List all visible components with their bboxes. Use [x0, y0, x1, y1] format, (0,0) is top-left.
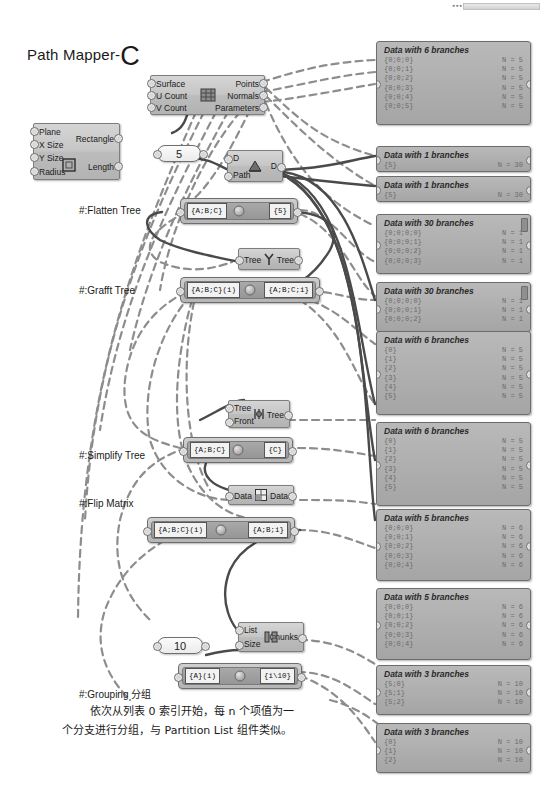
mapper-flip[interactable]: {A;B;C}(i) {A;B;i} — [147, 517, 295, 543]
mapper-grouping-out[interactable] — [297, 673, 306, 682]
mapper-knob-icon[interactable] — [234, 206, 245, 217]
mapper-grouping-in[interactable] — [174, 673, 183, 682]
port-d-out[interactable] — [277, 163, 286, 172]
label-simplify-tree: #:Simplify Tree — [79, 450, 145, 461]
grasshopper-canvas[interactable]: ▪▪▪ — [0, 0, 541, 799]
mapper-simplify[interactable]: {A;B;C} {C} — [183, 437, 293, 463]
rectangle-component[interactable]: Plane X Size Y Size Radius Rectangle Len… — [33, 123, 120, 180]
port-size-in[interactable] — [235, 641, 244, 650]
port-length[interactable] — [114, 162, 123, 171]
panel-out[interactable] — [526, 461, 531, 470]
mapper-knob-icon[interactable] — [245, 285, 256, 296]
panel-flatten-b[interactable]: Data with 1 branches {5}N = 30 — [376, 176, 531, 202]
panel-out[interactable] — [526, 688, 531, 697]
panel-out[interactable] — [526, 621, 531, 630]
port-data-out[interactable] — [288, 492, 297, 501]
port-tree-out[interactable] — [284, 411, 293, 420]
panel-row: {2}N = 5 — [384, 455, 523, 464]
panel-flip-a[interactable]: Data with 5 branches {0;0;0}N = 6 {0;0;1… — [376, 509, 531, 581]
panel-out[interactable] — [526, 80, 531, 89]
mapper-simplify-in[interactable] — [179, 447, 188, 456]
panel-flatten-a[interactable]: Data with 1 branches {5}N = 30 — [376, 146, 531, 172]
panel-row: {1}N = 5 — [384, 355, 523, 364]
panel-out[interactable] — [526, 241, 531, 250]
page-title: Path Mapper-C — [27, 46, 140, 68]
port-ysize[interactable] — [30, 153, 39, 162]
panel-flip-b[interactable]: Data with 5 branches {0;0;0}N = 6 {0;0;1… — [376, 588, 531, 660]
simplify-tree-component[interactable]: Tree Front Tree — [228, 400, 290, 428]
divide-surface-component[interactable]: Surface U Count V Count Points Normals P… — [150, 75, 265, 115]
mapper-simplify-source: {A;B;C} — [190, 442, 230, 458]
panel-simplify-b[interactable]: Data with 6 branches {0}N = 5 {1}N = 5 {… — [376, 422, 531, 506]
panel-row: {0;0;0;2}N = 1 — [384, 247, 523, 256]
panel-row: {0;0;1}N = 5 — [384, 65, 523, 74]
panel-row: {0;0;0;2}N = 1 — [384, 315, 523, 324]
panel-out[interactable] — [526, 542, 531, 551]
port-front-in[interactable] — [225, 418, 234, 427]
divide-surface-icon — [199, 87, 217, 103]
graft-tree-icon — [262, 252, 276, 266]
mapper-knob-icon[interactable] — [233, 445, 244, 456]
port-chunks-out[interactable] — [298, 634, 307, 643]
panel-row: {0;0;3}N = 5 — [384, 84, 523, 93]
flatten-tree-icon — [246, 158, 264, 174]
panel-row: {1}N = 5 — [384, 446, 523, 455]
flatten-tree-component[interactable]: D Path D — [227, 150, 283, 182]
port-xsize[interactable] — [30, 140, 39, 149]
slider-10-in[interactable] — [153, 642, 162, 651]
port-plane[interactable] — [30, 127, 39, 136]
port-tree-in[interactable] — [225, 404, 234, 413]
partition-list-component[interactable]: List Size Chunks — [238, 622, 304, 652]
panel-out[interactable] — [526, 746, 531, 755]
mapper-graft-in[interactable] — [176, 287, 185, 296]
port-radius[interactable] — [30, 167, 39, 176]
panel-divide-output[interactable]: Data with 6 branches {0;0;0}N = 5 {0;0;1… — [376, 41, 531, 125]
port-tree-in[interactable] — [235, 256, 244, 265]
mapper-flip-in[interactable] — [143, 527, 152, 536]
slider-5-out[interactable] — [199, 150, 208, 159]
panel-simplify-a[interactable]: Data with 6 branches {0}N = 5 {1}N = 5 {… — [376, 331, 531, 415]
panel-out[interactable] — [526, 370, 531, 379]
mapper-flatten-out[interactable] — [293, 208, 302, 217]
mapper-grouping[interactable]: {A}(i) {i\10} — [178, 663, 302, 689]
port-surface[interactable] — [147, 79, 156, 88]
panel-graft-a[interactable]: Data with 30 branches {0;0;0;0}N = 1 {0;… — [376, 214, 531, 274]
panel-out[interactable] — [526, 305, 531, 314]
mapper-simplify-out[interactable] — [288, 447, 297, 456]
panel-row: {5;1}N = 10 — [384, 689, 523, 698]
panel-scrollbar[interactable] — [521, 286, 528, 300]
mapper-knob-icon[interactable] — [235, 671, 246, 682]
port-data-in[interactable] — [225, 492, 234, 501]
mapper-graft[interactable]: {A;B;C}(i) {A;B;C;i} — [180, 277, 320, 303]
port-tree-out[interactable] — [294, 256, 303, 265]
slider-5-in[interactable] — [153, 150, 162, 159]
port-normals[interactable] — [259, 91, 268, 100]
port-vcount[interactable] — [147, 103, 156, 112]
panel-graft-b[interactable]: Data with 30 branches {0;0;0;0}N = 1 {0;… — [376, 282, 531, 332]
port-d-in[interactable] — [224, 155, 233, 164]
note-line-1: 依次从列表 0 索引开始，每 n 个项值为一 — [90, 702, 294, 721]
graft-tree-component[interactable]: Tree Tree — [238, 248, 300, 270]
flip-matrix-component[interactable]: Data Data — [228, 485, 294, 505]
slider-10-out[interactable] — [201, 642, 210, 651]
mapper-flatten-in[interactable] — [176, 208, 185, 217]
panel-row: {0;0;5}N = 5 — [384, 102, 523, 111]
panel-group-b[interactable]: Data with 3 branches {0}N = 10 {1}N = 10… — [376, 723, 531, 773]
port-parameters[interactable] — [259, 103, 268, 112]
port-points[interactable] — [259, 79, 268, 88]
panel-row: {0;0;0;0}N = 1 — [384, 297, 523, 306]
port-ucount[interactable] — [147, 91, 156, 100]
slider-10[interactable]: 10 — [157, 637, 203, 654]
mapper-graft-out[interactable] — [315, 287, 324, 296]
port-list-in[interactable] — [235, 626, 244, 635]
panel-scrollbar[interactable] — [521, 218, 528, 232]
mapper-flip-out[interactable] — [290, 527, 299, 536]
panel-group-a[interactable]: Data with 3 branches {5;0}N = 10 {5;1}N … — [376, 665, 531, 715]
mapper-knob-icon[interactable] — [216, 525, 227, 536]
port-path-in[interactable] — [224, 172, 233, 181]
port-rectangle[interactable] — [114, 134, 123, 143]
panel-out[interactable] — [526, 186, 531, 195]
mapper-flatten[interactable]: {A;B;C} {5} — [180, 198, 298, 224]
panel-out[interactable] — [526, 156, 531, 165]
slider-5[interactable]: 5 — [157, 145, 201, 162]
